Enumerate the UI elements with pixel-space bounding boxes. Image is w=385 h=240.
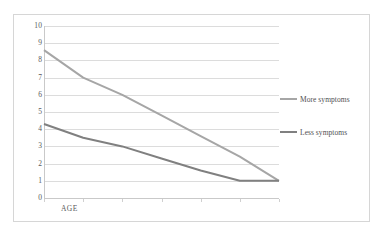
chart-frame: 012345678910 AGE More symptomsLess sympt…	[13, 14, 370, 222]
chart-figure: 012345678910 AGE More symptomsLess sympt…	[0, 0, 385, 240]
legend-entry-1[interactable]: More symptoms	[280, 93, 372, 105]
series-line-2	[44, 124, 279, 181]
legend-entry-2[interactable]: Less symptoms	[280, 126, 372, 138]
legend-label: Less symptoms	[300, 128, 347, 137]
chart-legend: More symptomsLess symptoms	[280, 93, 372, 159]
legend-label: More symptoms	[300, 95, 350, 104]
legend-swatch-icon	[280, 98, 297, 100]
legend-swatch-icon	[280, 131, 297, 133]
series-line-1	[44, 50, 279, 181]
x-axis-title: AGE	[61, 204, 78, 213]
